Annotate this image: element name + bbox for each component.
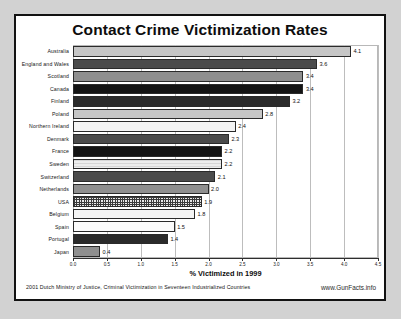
bar [73, 196, 202, 207]
x-axis-tick [141, 258, 142, 261]
bar [73, 134, 229, 145]
x-axis-tick [73, 258, 74, 261]
bar-row: Denmark2.3 [73, 133, 378, 146]
x-axis-tick [344, 258, 345, 261]
bar-value-label: 2.0 [211, 186, 219, 192]
category-label: Australia [47, 48, 69, 54]
category-label: Canada [50, 86, 69, 92]
bar-value-label: 1.8 [198, 211, 206, 217]
bar-row: Belgium1.8 [73, 208, 378, 221]
bar [73, 84, 303, 95]
bar-row: USA1.9 [73, 195, 378, 208]
category-label: Japan [54, 249, 69, 255]
bar-value-label: 3.4 [306, 73, 314, 79]
category-label: Northern Ireland [29, 123, 69, 129]
bar-row: Australia4.1 [73, 45, 378, 58]
plot-area: Australia4.1England and Wales3.6Scotland… [73, 45, 378, 258]
category-label: USA [58, 199, 69, 205]
bar [73, 121, 236, 132]
bar [73, 109, 263, 120]
bar-row: Northern Ireland2.4 [73, 120, 378, 133]
category-label: Spain [55, 224, 69, 230]
bar-value-label: 1.4 [170, 236, 178, 242]
x-axis-tick-label: 1.0 [138, 262, 144, 267]
bar-value-label: 3.2 [292, 98, 300, 104]
site-credit: www.GunFacts.info [321, 284, 376, 291]
bar [73, 234, 168, 245]
bar-value-label: 2.4 [238, 123, 246, 129]
bar [73, 159, 222, 170]
bar [73, 46, 351, 57]
gridline [378, 45, 379, 258]
bar-value-label: 2.2 [225, 148, 233, 154]
category-label: England and Wales [22, 61, 69, 67]
x-axis-tick-label: 1.5 [171, 262, 177, 267]
bar-row: England and Wales3.6 [73, 58, 378, 71]
footer: 2001 Dutch Ministry of Justice, Criminal… [26, 284, 376, 293]
source-note: 2001 Dutch Ministry of Justice, Criminal… [26, 284, 250, 290]
category-label: Scotland [48, 73, 69, 79]
x-axis-tick-label: 3.0 [273, 262, 279, 267]
bar-value-label: 2.2 [225, 161, 233, 167]
x-axis-tick [276, 258, 277, 261]
bar [73, 59, 317, 70]
bar [73, 96, 290, 107]
bar [73, 184, 209, 195]
x-axis-tick-label: 2.5 [239, 262, 245, 267]
bar-row: Japan0.4 [73, 245, 378, 258]
bar-row: Poland2.8 [73, 108, 378, 121]
bar [73, 171, 215, 182]
category-label: Denmark [47, 136, 69, 142]
x-axis-title: % Victimized in 1999 [73, 269, 378, 278]
category-label: France [52, 148, 69, 154]
category-label: Poland [52, 111, 69, 117]
bar-row: Finland3.2 [73, 95, 378, 108]
bar-value-label: 2.3 [231, 136, 239, 142]
bar-row: Netherlands2.0 [73, 183, 378, 196]
bar-value-label: 2.1 [218, 174, 226, 180]
category-label: Portugal [48, 236, 69, 242]
category-label: Finland [51, 98, 69, 104]
bar-row: Spain1.5 [73, 220, 378, 233]
category-label: Sweden [49, 161, 69, 167]
x-axis-tick [209, 258, 210, 261]
bar [73, 71, 303, 82]
bar-row: France2.2 [73, 145, 378, 158]
bar [73, 146, 222, 157]
chart-card: Contact Crime Victimization Rates Austra… [14, 14, 386, 301]
x-axis-tick-label: 4.5 [375, 262, 381, 267]
category-label: Belgium [49, 211, 69, 217]
x-axis-tick [242, 258, 243, 261]
bar [73, 221, 175, 232]
bar-row: Switzerland2.1 [73, 170, 378, 183]
category-label: Netherlands [39, 186, 69, 192]
x-axis-tick [107, 258, 108, 261]
x-axis-tick [378, 258, 379, 261]
x-axis-tick-label: 2.0 [205, 262, 211, 267]
bar [73, 209, 195, 220]
category-label: Switzerland [41, 174, 69, 180]
bar-value-label: 4.1 [353, 48, 361, 54]
x-axis-tick [175, 258, 176, 261]
x-axis-tick-label: 3.5 [307, 262, 313, 267]
x-axis-line: 0.00.51.01.52.02.53.03.54.04.5 [73, 258, 378, 259]
bar-value-label: 3.4 [306, 86, 314, 92]
x-axis-tick [310, 258, 311, 261]
bar-row: Sweden2.2 [73, 158, 378, 171]
bar-row: Portugal1.4 [73, 233, 378, 246]
bar [73, 246, 100, 257]
bar-value-label: 2.8 [265, 111, 273, 117]
bar-row: Canada3.4 [73, 83, 378, 96]
x-axis-tick-label: 4.0 [341, 262, 347, 267]
x-axis-tick-label: 0.0 [70, 262, 76, 267]
page-background: Contact Crime Victimization Rates Austra… [0, 0, 401, 319]
bar-value-label: 1.5 [177, 224, 185, 230]
bar-value-label: 3.6 [320, 61, 328, 67]
bar-value-label: 1.9 [204, 199, 212, 205]
bar-value-label: 0.4 [103, 249, 111, 255]
chart-title: Contact Crime Victimization Rates [16, 21, 384, 39]
bar-row: Scotland3.4 [73, 70, 378, 83]
x-axis-tick-label: 0.5 [104, 262, 110, 267]
